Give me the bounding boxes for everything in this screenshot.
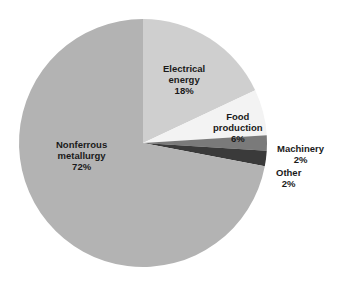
label-line: Nonferrous — [56, 139, 107, 150]
label-percent: 2% — [277, 154, 324, 165]
label-line: energy — [163, 74, 205, 85]
label-percent: 2% — [276, 178, 301, 189]
label-other: Other 2% — [276, 167, 301, 189]
label-line: Food — [213, 111, 263, 122]
label-line: production — [213, 122, 263, 133]
label-food-production: Food production 6% — [213, 111, 263, 144]
label-line: Machinery — [277, 143, 324, 154]
label-machinery: Machinery 2% — [277, 143, 324, 165]
label-percent: 6% — [213, 133, 263, 144]
label-line: Electrical — [163, 63, 205, 74]
label-nonferrous-metallurgy: Nonferrous metallurgy 72% — [56, 139, 107, 172]
label-line: metallurgy — [56, 150, 107, 161]
label-electrical-energy: Electrical energy 18% — [163, 63, 205, 96]
label-percent: 72% — [56, 161, 107, 172]
label-line: Other — [276, 167, 301, 178]
label-percent: 18% — [163, 85, 205, 96]
